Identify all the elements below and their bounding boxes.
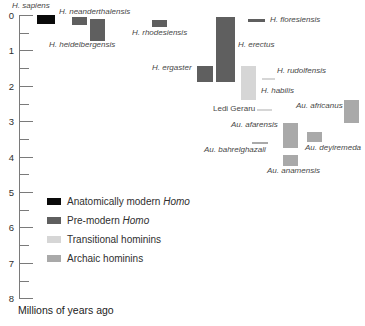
bar-h-ergaster [197,66,213,82]
y-axis-minor-tick [19,139,29,140]
bar-h-sapiens [37,15,55,24]
bar-h-habilis [241,66,256,100]
label-h-ergaster: H. ergaster [152,64,192,72]
label-au-anamensis: Au. anamensis [267,167,320,175]
bar-au-afarensis [283,123,298,148]
y-axis-tick-label: 8 [0,294,14,304]
y-axis-major-tick [19,121,33,122]
y-axis-major-tick [19,86,33,87]
y-axis-tick-label: 4 [0,153,14,163]
y-axis-tick-label: 7 [0,259,14,269]
label-au-afarensis: Au. afarensis [231,121,278,129]
y-axis-minor-tick [19,281,29,282]
legend-swatch-modern-homo [47,198,61,205]
label-h-rudolfensis: H. rudolfensis [277,67,326,75]
y-axis-minor-tick [19,104,29,105]
y-axis-tick-label: 0 [0,11,14,21]
y-axis-tick-label: 1 [0,46,14,56]
y-axis-major-tick [19,227,33,228]
y-axis-minor-tick [19,210,29,211]
bar-ledi-geraru [257,109,272,111]
y-axis-major-tick [19,15,33,16]
y-axis-major-tick [19,263,33,264]
bar-au-bahrelghazali [252,142,268,144]
y-axis-major-tick [19,50,33,51]
label-au-bahrelghazali: Au. bahrelghazali [204,146,266,154]
legend-item-modern-homo: Anatomically modern Homo [47,192,190,211]
label-h-floresiensis: H. floresiensis [270,16,320,24]
y-axis-minor-tick [19,33,29,34]
label-h-neanderthalensis: H. neanderthalensis [59,8,130,16]
legend-swatch-archaic-hominins [47,255,61,262]
label-h-rhodesiensis: H. rhodesiensis [132,29,187,37]
legend: Anatomically modern Homo Pre-modern Homo… [47,192,190,268]
y-axis-minor-tick [19,68,29,69]
bar-au-africanus [344,100,359,123]
legend-swatch-premodern-homo [47,217,61,224]
label-h-habilis: H. habilis [261,87,294,95]
y-axis-major-tick [19,157,33,158]
bar-h-rhodesiensis [152,20,167,27]
bar-h-neanderthalensis [72,17,87,25]
y-axis-minor-tick [19,174,29,175]
label-h-erectus: H. erectus [238,41,274,49]
y-axis-major-tick [19,298,33,299]
bar-h-erectus [216,17,235,82]
legend-item-transitional-hominins: Transitional hominins [47,230,190,249]
label-au-deyiremeda: Au. deyiremeda [305,144,361,152]
y-axis-minor-tick [19,245,29,246]
bar-h-heidelbergensis [90,19,105,41]
label-au-africanus: Au. africanus [296,102,343,110]
label-h-heidelbergensis: H. heidelbergensis [49,41,115,49]
label-h-sapiens: H. sapiens [12,2,50,10]
y-axis-tick-label: 2 [0,82,14,92]
bar-au-anamensis [283,155,298,166]
legend-swatch-transitional-hominins [47,236,61,243]
bar-au-deyiremeda [307,132,322,142]
hominin-timeline-chart: 012345678 H. sapiensH. neanderthalensisH… [0,0,365,326]
y-axis-major-tick [19,192,33,193]
legend-label-archaic-hominins: Archaic hominins [67,253,143,264]
axis-caption: Millions of years ago [18,304,114,316]
legend-item-premodern-homo: Pre-modern Homo [47,211,190,230]
legend-label-premodern-homo: Pre-modern Homo [67,215,149,226]
bar-h-floresiensis [248,19,265,22]
legend-item-archaic-hominins: Archaic hominins [47,249,190,268]
y-axis-tick-label: 6 [0,223,14,233]
y-axis-tick-label: 5 [0,188,14,198]
legend-label-modern-homo: Anatomically modern Homo [67,196,190,207]
legend-label-transitional-hominins: Transitional hominins [67,234,161,245]
bar-h-rudolfensis [262,78,275,80]
y-axis-tick-label: 3 [0,117,14,127]
label-ledi-geraru: Ledi Geraru [213,105,255,113]
